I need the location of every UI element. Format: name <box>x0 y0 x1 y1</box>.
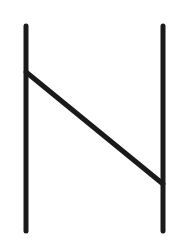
letter-n-diagram <box>0 0 187 242</box>
diagonal-stroke <box>26 72 163 184</box>
